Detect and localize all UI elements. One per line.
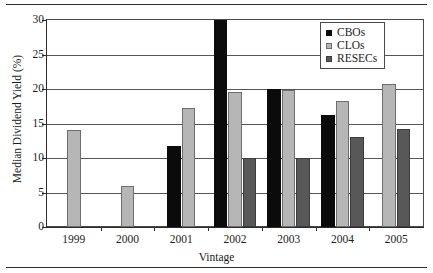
top-divider-rule: [6, 4, 427, 5]
x-tick-label-2003: 2003: [262, 233, 316, 245]
bar-resecs-2005: [397, 129, 411, 227]
bar-clos-2004: [336, 101, 350, 227]
legend-label: CLOs: [337, 40, 364, 52]
bar-cbos-2003: [267, 89, 281, 227]
y-tick-label: 30: [33, 14, 45, 26]
x-tick-mark: [154, 227, 155, 231]
bar-clos-1999: [67, 130, 81, 227]
y-axis-line: [46, 19, 47, 227]
x-tick-mark: [262, 227, 263, 231]
x-tick-label-2001: 2001: [154, 233, 208, 245]
y-tick-label: 0: [38, 221, 44, 233]
x-axis-line: [46, 227, 424, 228]
bottom-divider-rule: [6, 267, 427, 268]
x-tick-mark: [101, 227, 102, 231]
bar-clos-2005: [382, 84, 396, 227]
legend-swatch-icon: [326, 56, 332, 62]
x-tick-label-2002: 2002: [208, 233, 262, 245]
bar-clos-2002: [228, 92, 242, 227]
legend-item-clos: CLOs: [326, 39, 377, 52]
y-axis-title: Median Dividend Yield (%): [11, 29, 23, 209]
x-tick-mark: [208, 227, 209, 231]
legend-label: CBOs: [337, 27, 365, 39]
y-tick-label: 15: [33, 118, 45, 130]
x-tick-mark: [316, 227, 317, 231]
bar-cbos-2004: [321, 115, 335, 227]
bar-clos-2000: [121, 186, 135, 227]
legend-item-resecs: RESECs: [326, 52, 377, 65]
x-tick-mark: [369, 227, 370, 231]
y-tick-label: 25: [33, 49, 45, 61]
x-tick-label-2000: 2000: [101, 233, 155, 245]
bar-resecs-2004: [350, 137, 364, 227]
legend-swatch-icon: [326, 43, 332, 49]
bar-cbos-2001: [167, 146, 181, 227]
x-tick-label-1999: 1999: [47, 233, 101, 245]
bar-cbos-2002: [214, 20, 228, 227]
legend-swatch-icon: [326, 30, 332, 36]
bar-resecs-2003: [296, 158, 310, 227]
chart-figure: 051015202530 Median Dividend Yield (%) 1…: [0, 0, 433, 273]
y-tick-label: 5: [38, 187, 44, 199]
bar-clos-2001: [182, 108, 196, 227]
x-tick-label-2005: 2005: [369, 233, 423, 245]
y-tick-label: 20: [33, 83, 45, 95]
x-tick-label-2004: 2004: [315, 233, 369, 245]
legend-item-cbos: CBOs: [326, 26, 377, 39]
legend-label: RESECs: [337, 53, 377, 65]
chart-legend: CBOsCLOsRESECs: [320, 22, 385, 69]
y-tick-label: 10: [33, 152, 45, 164]
x-axis-title: Vintage: [0, 251, 433, 263]
bar-resecs-2002: [243, 158, 257, 227]
bar-clos-2003: [282, 90, 296, 227]
